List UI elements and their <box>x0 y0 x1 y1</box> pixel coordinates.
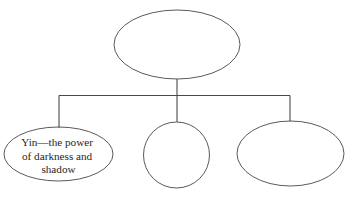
concept-map-diagram: Yin—the power of darkness and shadow <box>0 0 351 197</box>
diagram-canvas: Yin—the power of darkness and shadow <box>0 0 351 197</box>
node-child-left-line-3: shadow <box>41 163 76 175</box>
node-root[interactable] <box>114 10 240 79</box>
node-child-right[interactable] <box>237 121 344 186</box>
connector-group <box>59 79 290 128</box>
node-child-right-ellipse[interactable] <box>237 121 344 186</box>
node-child-left-label: Yin—the power of darkness and shadow <box>21 136 96 175</box>
node-child-middle[interactable] <box>144 122 210 188</box>
node-child-middle-circle[interactable] <box>144 122 210 188</box>
node-root-ellipse[interactable] <box>114 10 240 79</box>
node-child-left[interactable]: Yin—the power of darkness and shadow <box>4 127 113 181</box>
node-child-left-line-2: of darkness and <box>22 150 93 162</box>
node-child-left-line-1: Yin—the power <box>21 136 93 148</box>
